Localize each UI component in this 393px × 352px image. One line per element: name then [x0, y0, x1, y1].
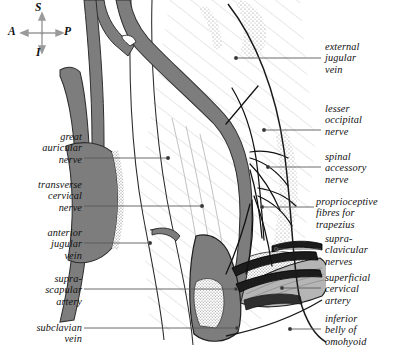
- leader-endpoint-proprioceptive-fibres-for-trapezius: [260, 205, 263, 208]
- orientation-compass: S A P I: [6, 2, 80, 64]
- label-anterior-jugular-vein: anterior jugular vein: [4, 227, 82, 261]
- label-great-auricular-nerve: great auricular nerve: [4, 131, 82, 165]
- anatomical-figure: S A P I great auricular nervetransverse …: [0, 0, 393, 352]
- leader-endpoint-subclavian-vein: [235, 326, 238, 329]
- compass-posterior: P: [64, 25, 71, 37]
- label-lesser-occipital-nerve: lesser occipital nerve: [325, 103, 393, 137]
- compass-inferior: I: [36, 46, 40, 58]
- label-supraclavicular-nerves: supra- clavicular nerves: [325, 233, 393, 267]
- leader-endpoint-external-jugular-vein: [234, 56, 237, 59]
- label-external-jugular-vein: external jugular vein: [325, 41, 393, 75]
- label-superficial-cervical-artery: superficial cervical artery: [325, 272, 393, 306]
- compass-anterior: A: [8, 25, 16, 37]
- leader-endpoint-supraclavicular-nerves: [274, 247, 277, 250]
- leader-endpoint-anterior-jugular-vein: [148, 241, 151, 244]
- leader-endpoint-lesser-occipital-nerve: [262, 128, 265, 131]
- leader-endpoint-inferior-belly-of-omohyoid: [288, 327, 291, 330]
- label-inferior-belly-of-omohyoid: inferior belly of omohyoid: [325, 313, 393, 347]
- leader-endpoint-suprascapular-artery: [234, 287, 237, 290]
- label-proprioceptive-fibres-for-trapezius: proprioceptive fibres for trapezius: [316, 196, 393, 230]
- leader-endpoint-spinal-accessory-nerve: [266, 165, 269, 168]
- label-transverse-cervical-nerve: transverse cervical nerve: [4, 179, 82, 213]
- label-spinal-accessory-nerve: spinal accessory nerve: [325, 151, 393, 185]
- label-suprascapular-artery: supra- scapular artery: [4, 273, 82, 307]
- compass-superior: S: [35, 1, 41, 13]
- leader-endpoint-great-auricular-nerve: [166, 156, 169, 159]
- leader-endpoint-superficial-cervical-artery: [280, 286, 283, 289]
- leader-endpoint-transverse-cervical-nerve: [200, 204, 203, 207]
- label-subclavian-vein: subclavian vein: [4, 322, 82, 345]
